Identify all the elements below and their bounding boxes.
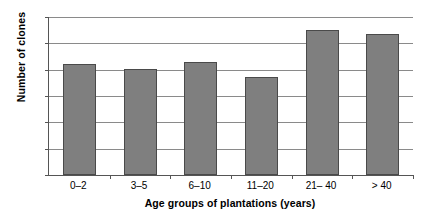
x-tick-label: 0–2 (48, 180, 109, 192)
bar (306, 30, 339, 175)
y-axis-title: Number of clones (15, 0, 29, 127)
x-tick-label: 21– 40 (291, 180, 352, 192)
bar (184, 62, 217, 175)
x-tick-label: > 40 (351, 180, 412, 192)
x-tick-mark (170, 175, 171, 179)
x-tick-label: 3–5 (109, 180, 170, 192)
plot-area (48, 17, 413, 176)
x-tick-mark (292, 175, 293, 179)
bar (124, 69, 157, 175)
x-tick-mark (231, 175, 232, 179)
bar (366, 34, 399, 175)
x-tick-label: 6–10 (169, 180, 230, 192)
x-tick-mark (352, 175, 353, 179)
x-axis-tick-labels: 0–23–56–1011–2021– 40> 40 (48, 180, 412, 194)
x-tick-label: 11–20 (230, 180, 291, 192)
y-tick-mark (45, 175, 49, 176)
x-tick-mark (413, 175, 414, 179)
x-axis-title: Age groups of plantations (years) (48, 197, 412, 209)
bar (63, 64, 96, 175)
x-tick-mark (110, 175, 111, 179)
bars-group (49, 17, 413, 175)
bar-chart: Number of clones 051015202530 0–23–56–10… (0, 0, 430, 218)
bar (245, 77, 278, 175)
